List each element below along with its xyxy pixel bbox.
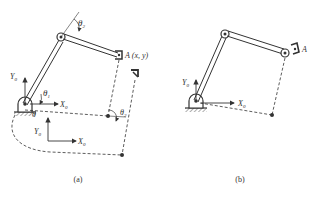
- label-x0-bottom-a: X0: [77, 137, 86, 147]
- label-y0-b: Y0: [182, 78, 189, 88]
- label-x0-b: X0: [237, 99, 246, 109]
- label-y0-top-a: Y0: [10, 72, 17, 82]
- link-2-a: [63, 34, 118, 57]
- label-x0-top-a: X0: [59, 100, 68, 110]
- label-point-a-b: A: [301, 45, 307, 54]
- label-theta2-a: θ2: [78, 18, 85, 29]
- label-theta2-prime-a: θ2: [120, 108, 127, 118]
- label-theta1-a: θ1: [43, 88, 50, 99]
- link-2-b: [227, 31, 284, 54]
- panel-a: Y0 X0 θ1 θ2 A (x, y) θ2 θ Y0 X0 (a): [10, 12, 149, 184]
- end-effector-b: [291, 43, 299, 54]
- robot-arm-diagram: Y0 X0 θ1 θ2 A (x, y) θ2 θ Y0 X0 (a): [0, 0, 321, 201]
- label-y0-bottom-a: Y0: [34, 127, 41, 137]
- panel-b: Y0 X0 A (b): [182, 30, 307, 184]
- caption-b: (b): [235, 175, 245, 184]
- caption-a: (a): [74, 175, 83, 184]
- label-theta1-prime-a: θ: [32, 110, 36, 119]
- link-1-b: [194, 36, 226, 102]
- label-point-a: A (x, y): [124, 51, 149, 60]
